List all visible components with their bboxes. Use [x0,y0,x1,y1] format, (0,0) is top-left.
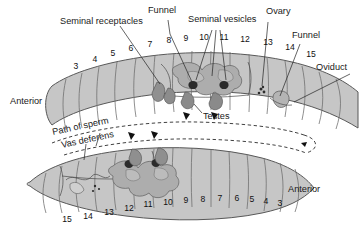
label-funnel-right: Funnel [292,30,320,40]
lower-segment-number-15: 15 [62,214,72,224]
label-anterior-right: Anterior [288,184,320,194]
lower-segment-number-4: 4 [264,196,269,206]
label-seminal-vesicles: Seminal vesicles [188,14,257,24]
upper-segment-number-3: 3 [74,61,79,71]
upper-segment-number-9: 9 [184,33,189,43]
upper-segment-number-6: 6 [129,43,134,53]
lower-segment-number-8: 8 [201,194,206,204]
upper-segment-number-15: 15 [306,49,316,59]
upper-segment-number-4: 4 [93,54,98,64]
lower-segment-number-9: 9 [184,195,189,205]
lower-segment-number-6: 6 [235,193,240,203]
lower-segment-number-14: 14 [83,211,93,221]
upper-segment-number-14: 14 [285,42,295,52]
upper-segment-number-7: 7 [148,39,153,49]
label-testes: Testes [203,111,230,121]
funnel-dark-spot-right [219,81,228,89]
lower-segment-number-13: 13 [104,207,114,217]
upper-segment-number-12: 12 [240,34,250,44]
lower-segment-number-7: 7 [218,193,223,203]
upper-segment-number-8: 8 [167,35,172,45]
lower-segment-number-3: 3 [278,198,283,208]
label-ovary: Ovary [266,6,291,16]
label-anterior-left: Anterior [10,96,42,106]
funnel-dark-spot-left [188,81,197,89]
lower-segment-number-11: 11 [144,199,153,209]
label-funnel-top: Funnel [148,5,176,15]
lower-segment-number-10: 10 [163,197,173,207]
upper-segment-number-5: 5 [111,48,116,58]
lower-segment-number-12: 12 [124,203,134,213]
label-oviduct: Oviduct [316,62,348,72]
label-seminal-receptacles: Seminal receptacles [60,16,143,26]
upper-segment-number-11: 11 [220,32,229,42]
upper-segment-number-13: 13 [263,37,273,47]
upper-segment-number-10: 10 [199,32,209,42]
earthworm-reproductive-diagram: Seminal receptacles Funnel Seminal vesic… [0,0,364,236]
lower-segment-number-5: 5 [250,194,255,204]
